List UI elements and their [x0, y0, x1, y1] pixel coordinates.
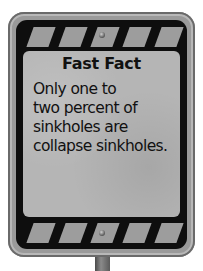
- stripe: [58, 27, 87, 47]
- fact-line: two percent of: [33, 99, 181, 118]
- fact-line: sinkholes are: [33, 118, 181, 137]
- bolt-icon: [99, 32, 105, 38]
- stripe: [122, 223, 151, 243]
- sign-title: Fast Fact: [23, 54, 180, 73]
- stripe: [122, 27, 151, 47]
- fact-line: Only one to: [33, 80, 181, 99]
- fact-line: collapse sinkholes.: [33, 137, 181, 156]
- stripe: [90, 27, 119, 47]
- fact-text: Only one to two percent of sinkholes are…: [33, 80, 181, 156]
- stripe: [26, 27, 55, 47]
- stripe: [58, 223, 87, 243]
- bolt-icon: [99, 230, 105, 236]
- stripe: [90, 223, 119, 243]
- stripe: [26, 223, 55, 243]
